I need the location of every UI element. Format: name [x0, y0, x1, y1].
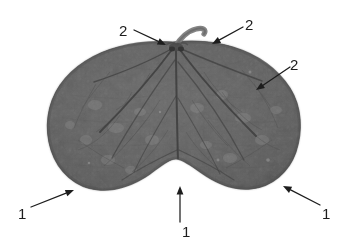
callout-1-bottom-left-label: 1	[18, 206, 26, 221]
callout-2-top-left-shaft	[134, 30, 158, 41]
callout-2-top-right-shaft	[219, 27, 243, 40]
callout-1-bottom-left	[31, 190, 74, 207]
callout-1-bottom-right-label: 1	[322, 206, 330, 221]
leaf-blade	[40, 30, 315, 200]
callout-1-bottom-center-label: 1	[182, 224, 190, 239]
callout-1-bottom-center	[177, 186, 184, 222]
callout-2-top-right-head	[212, 37, 221, 44]
callout-1-bottom-center-head	[177, 186, 184, 195]
callout-1-bottom-left-shaft	[31, 193, 66, 207]
callout-1-bottom-right-head	[283, 186, 292, 193]
callout-2-top-left-label: 2	[119, 23, 127, 38]
callout-1-bottom-right-shaft	[291, 190, 320, 205]
callout-2-top-right-label: 2	[245, 17, 253, 32]
callout-1-bottom-left-head	[65, 190, 74, 196]
callout-1-bottom-right	[283, 186, 320, 205]
callout-2-top-right	[212, 27, 243, 44]
leaf-diagram-svg	[0, 0, 347, 251]
callout-2-right-lobe-label: 2	[290, 57, 298, 72]
leaf-figure: 222111	[0, 0, 347, 251]
leaf-surface-texture	[40, 30, 315, 200]
